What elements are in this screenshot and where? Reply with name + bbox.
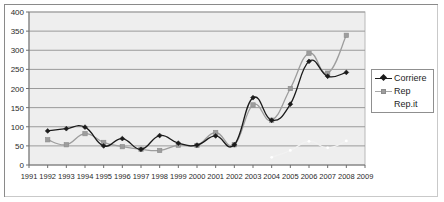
svg-text:300: 300 — [11, 46, 25, 55]
svg-text:200: 200 — [11, 85, 25, 94]
svg-text:150: 150 — [11, 104, 25, 113]
svg-text:1998: 1998 — [151, 172, 168, 181]
svg-text:1993: 1993 — [58, 172, 75, 181]
y-axis-tick-labels: 050100150200250300350400 — [11, 8, 25, 170]
svg-text:1999: 1999 — [170, 172, 187, 181]
legend-label-rep: Rep — [394, 85, 411, 98]
svg-text:2004: 2004 — [263, 172, 280, 181]
svg-text:0: 0 — [20, 161, 25, 170]
svg-text:2002: 2002 — [226, 172, 243, 181]
svg-text:1995: 1995 — [95, 172, 112, 181]
chart-legend: Corriere Rep Rep.it — [371, 69, 434, 113]
svg-text:2003: 2003 — [245, 172, 262, 181]
legend-label-corriere: Corriere — [394, 72, 427, 85]
x-axis-tick-labels: 1991199219931994199519961997199819992000… — [21, 172, 374, 181]
svg-text:350: 350 — [11, 27, 25, 36]
svg-text:250: 250 — [11, 65, 25, 74]
svg-text:2007: 2007 — [319, 172, 336, 181]
svg-text:50: 50 — [15, 142, 24, 151]
svg-text:2006: 2006 — [301, 172, 318, 181]
legend-item-rep-it[interactable]: Rep.it — [375, 98, 430, 111]
legend-item-corriere[interactable]: Corriere — [375, 72, 430, 85]
svg-text:2009: 2009 — [357, 172, 374, 181]
legend-label-rep-it: Rep.it — [394, 98, 418, 111]
svg-text:2001: 2001 — [207, 172, 224, 181]
svg-text:2008: 2008 — [338, 172, 355, 181]
legend-marker-diamond-icon — [375, 73, 392, 84]
svg-text:1992: 1992 — [39, 172, 56, 181]
svg-text:1994: 1994 — [77, 172, 94, 181]
chart-screenshot: 050100150200250300350400 199119921993199… — [0, 0, 444, 202]
legend-item-rep[interactable]: Rep — [375, 85, 430, 98]
svg-text:1991: 1991 — [21, 172, 38, 181]
svg-text:2005: 2005 — [282, 172, 299, 181]
svg-text:100: 100 — [11, 123, 25, 132]
svg-text:1997: 1997 — [133, 172, 150, 181]
legend-marker-square-icon — [375, 86, 392, 97]
svg-text:2000: 2000 — [189, 172, 206, 181]
svg-text:1996: 1996 — [114, 172, 131, 181]
svg-text:400: 400 — [11, 8, 25, 17]
